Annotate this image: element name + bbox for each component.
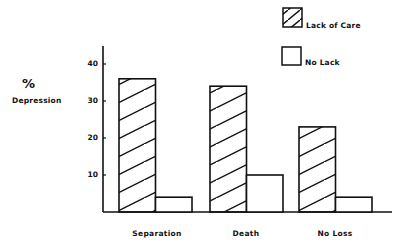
y-tick-label-10: 10 <box>80 170 98 179</box>
bar-no-loss-lack-of-care <box>299 127 336 212</box>
y-tick-label-40: 40 <box>80 59 98 68</box>
legend-swatch-lack-of-care <box>283 8 302 27</box>
y-axis-symbol: % <box>22 76 35 91</box>
category-label-death: Death <box>206 229 286 238</box>
legend-label-no-lack: No Lack <box>305 58 340 67</box>
bar-separation-no-lack <box>156 197 193 212</box>
category-label-no-loss: No Loss <box>295 229 375 238</box>
y-axis-label: Depression <box>12 96 61 105</box>
bar-chart <box>0 0 402 246</box>
y-tick-label-20: 20 <box>80 133 98 142</box>
bar-no-loss-no-lack <box>336 197 373 212</box>
bar-death-lack-of-care <box>210 86 247 212</box>
bar-death-no-lack <box>247 175 284 212</box>
legend-swatch-no-lack <box>282 47 301 65</box>
bar-separation-lack-of-care <box>119 79 156 212</box>
bars <box>119 79 372 212</box>
category-label-separation: Separation <box>117 229 197 238</box>
legend-label-lack-of-care: Lack of Care <box>306 21 361 30</box>
y-tick-label-30: 30 <box>80 96 98 105</box>
